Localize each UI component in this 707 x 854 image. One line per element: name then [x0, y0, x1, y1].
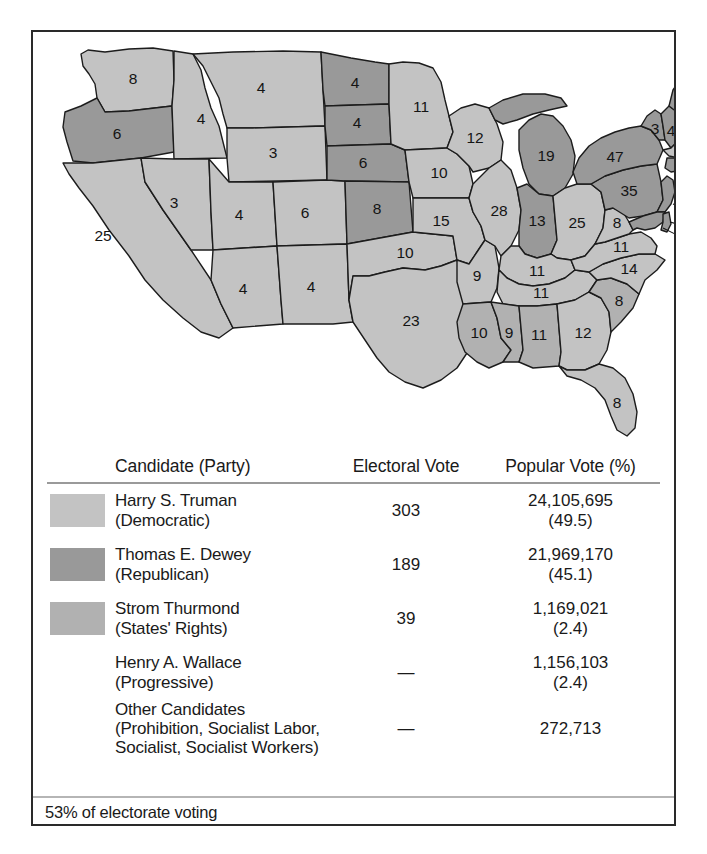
- legend-swatch-truman: [50, 494, 105, 527]
- candidate-cell: Henry A. Wallace (Progressive): [115, 653, 331, 692]
- legend-swatch-thurmond: [50, 602, 105, 635]
- state-label-ID: 4: [197, 110, 206, 127]
- candidate-name: Strom Thurmond: [115, 599, 331, 618]
- popular-vote-cell: 24,105,695 (49.5): [481, 491, 660, 530]
- popular-pct: (2.4): [481, 673, 660, 692]
- popular-pct: (45.1): [481, 565, 660, 584]
- turnout-footnote: 53% of electorate voting: [45, 803, 217, 822]
- swatch-cell: [47, 494, 115, 527]
- state-label-MT: 4: [257, 79, 266, 96]
- electoral-vote: —: [331, 719, 481, 739]
- state-label-SC: 8: [615, 292, 624, 309]
- table-row: Henry A. Wallace (Progressive) — 1,156,1…: [47, 646, 660, 700]
- electoral-vote: 303: [331, 501, 481, 521]
- popular-vote: 24,105,695: [528, 491, 613, 510]
- popular-vote: 1,156,103: [533, 653, 609, 672]
- footnote-rule: [33, 796, 674, 798]
- state-label-WY: 3: [269, 144, 278, 161]
- candidate-cell: Other Candidates (Prohibition, Socialist…: [115, 700, 331, 758]
- state-label-OH: 25: [568, 214, 585, 231]
- candidate-party: (Republican): [115, 565, 331, 584]
- swatch-cell: [47, 712, 115, 745]
- state-CO: [273, 180, 347, 246]
- popular-vote-cell: 1,169,021 (2.4): [481, 599, 660, 638]
- state-label-PA: 35: [620, 182, 637, 199]
- state-label-CO: 6: [301, 204, 310, 221]
- candidate-name: Harry S. Truman: [115, 491, 331, 510]
- header-popular: Popular Vote (%): [481, 456, 660, 477]
- header-electoral: Electoral Vote: [331, 456, 481, 477]
- state-NE: [327, 144, 409, 182]
- state-label-SD: 4: [353, 114, 362, 131]
- state-label-TX: 23: [402, 312, 419, 329]
- state-label-NV: 3: [170, 194, 179, 211]
- popular-vote-cell: 272,713: [481, 719, 660, 738]
- electoral-vote: —: [331, 663, 481, 683]
- state-label-NE: 6: [359, 154, 368, 171]
- state-label-WI: 12: [466, 129, 483, 146]
- state-label-NC: 14: [620, 260, 638, 277]
- state-label-WV: 8: [613, 214, 622, 231]
- table-row: Harry S. Truman (Democratic) 303 24,105,…: [47, 484, 660, 538]
- popular-vote: 21,969,170: [528, 545, 613, 564]
- state-label-ND: 4: [351, 74, 360, 91]
- state-label-KS: 8: [373, 200, 382, 217]
- candidate-name: Thomas E. Dewey: [115, 545, 331, 564]
- candidate-cell: Strom Thurmond (States' Rights): [115, 599, 331, 638]
- candidate-party: (Democratic): [115, 511, 331, 530]
- table-header-row: Candidate (Party) Electoral Vote Popular…: [47, 456, 660, 482]
- state-label-MI: 19: [537, 147, 554, 164]
- state-label-FL: 8: [613, 394, 622, 411]
- state-label-UT: 4: [235, 206, 244, 223]
- state-label-AZ: 4: [239, 280, 248, 297]
- state-FL: [559, 364, 637, 436]
- state-label-VA: 11: [613, 238, 629, 255]
- state-CT: [665, 158, 674, 172]
- candidate-cell: Harry S. Truman (Democratic): [115, 491, 331, 530]
- election-figure-frame: 8 6 25 4 3 4 3 4 6 4 4 4 4 6 8 10 23 11 …: [31, 30, 676, 826]
- state-label-GA: 12: [574, 324, 591, 341]
- popular-pct: (49.5): [481, 511, 660, 530]
- state-label-NH: 4: [667, 122, 674, 139]
- state-label-WA: 8: [129, 70, 138, 87]
- state-label-MN: 11: [413, 98, 429, 115]
- table-row: Thomas E. Dewey (Republican) 189 21,969,…: [47, 538, 660, 592]
- leader-line-NJ: [673, 204, 674, 216]
- electoral-vote: 189: [331, 555, 481, 575]
- state-label-IL: 28: [490, 202, 507, 219]
- legend-swatch-none: [50, 712, 105, 745]
- results-table: Candidate (Party) Electoral Vote Popular…: [33, 456, 674, 758]
- state-label-IA: 10: [430, 164, 448, 181]
- table-row: Other Candidates (Prohibition, Socialist…: [47, 700, 660, 758]
- electoral-vote: 39: [331, 609, 481, 629]
- candidate-name: Henry A. Wallace: [115, 653, 331, 672]
- state-label-OR: 6: [113, 125, 122, 142]
- state-label-AR: 9: [473, 267, 482, 284]
- popular-vote-cell: 21,969,170 (45.1): [481, 545, 660, 584]
- candidate-party: (Prohibition, Socialist Labor, Socialist…: [115, 719, 331, 758]
- state-label-OK: 10: [396, 244, 414, 261]
- state-label-MS: 9: [505, 324, 514, 341]
- popular-vote: 1,169,021: [533, 599, 609, 618]
- us-map-svg: 8 6 25 4 3 4 3 4 6 4 4 4 4 6 8 10 23 11 …: [33, 32, 674, 456]
- candidate-party: (States' Rights): [115, 619, 331, 638]
- popular-pct: (2.4): [481, 619, 660, 638]
- popular-vote-cell: 1,156,103 (2.4): [481, 653, 660, 692]
- state-label-MO: 15: [432, 212, 449, 229]
- swatch-cell: [47, 602, 115, 635]
- state-label-KY: 11: [529, 262, 545, 279]
- state-label-AL: 11: [531, 326, 547, 343]
- popular-vote: 272,713: [540, 719, 601, 738]
- state-label-CA: 25: [94, 227, 111, 244]
- electoral-map: 8 6 25 4 3 4 3 4 6 4 4 4 4 6 8 10 23 11 …: [33, 32, 674, 456]
- state-label-VT: 3: [651, 120, 660, 137]
- state-label-LA: 10: [470, 324, 488, 341]
- state-label-TN: 11: [533, 284, 549, 301]
- state-label-NY: 47: [606, 148, 623, 165]
- table-row: Strom Thurmond (States' Rights) 39 1,169…: [47, 592, 660, 646]
- legend-swatch-dewey: [50, 548, 105, 581]
- legend-swatch-none: [50, 656, 105, 689]
- candidate-name: Other Candidates: [115, 700, 331, 719]
- swatch-cell: [47, 548, 115, 581]
- candidate-party: (Progressive): [115, 673, 331, 692]
